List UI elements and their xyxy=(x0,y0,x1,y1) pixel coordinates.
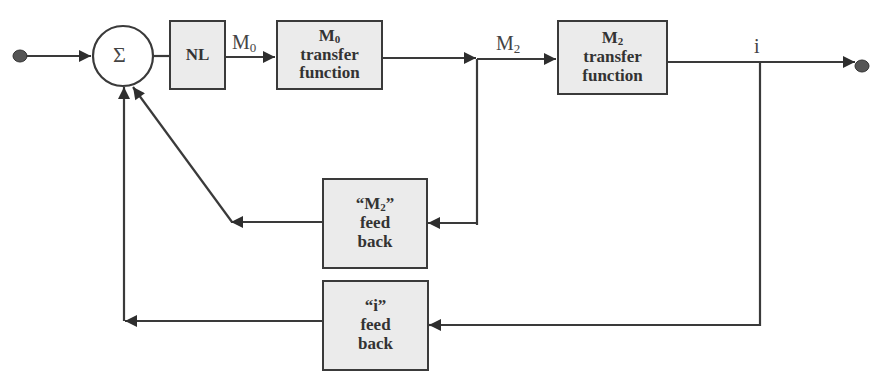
m0-block-title: M0 xyxy=(319,27,341,46)
m0-block-line-1: transfer xyxy=(300,46,359,65)
i-feedback-line-1: feed xyxy=(360,316,390,335)
m2-transfer-function-block: M2 transfer function xyxy=(557,20,668,95)
nl-block-label: NL xyxy=(186,46,210,65)
i-feedback-title: “i” xyxy=(365,297,387,316)
signal-label-m0: M0 xyxy=(232,32,256,54)
signal-label-i: i xyxy=(754,36,760,56)
diagram-wiring xyxy=(0,0,889,382)
m2-feedback-line-1: feed xyxy=(360,214,390,233)
signal-label-m2: M2 xyxy=(496,33,520,55)
output-terminal xyxy=(855,60,869,72)
m2-feedback-to-sum-line xyxy=(133,87,232,222)
block-diagram: Σ NL M0 transfer function M2 transfer fu… xyxy=(0,0,889,382)
m0-transfer-function-block: M0 transfer function xyxy=(276,20,383,90)
sum-symbol: Σ xyxy=(113,44,126,66)
m2-block-line-2: function xyxy=(582,67,642,86)
m2-block-line-1: transfer xyxy=(583,48,642,67)
m2-feedback-line-2: back xyxy=(358,233,393,252)
m0-block-line-2: function xyxy=(299,64,359,83)
input-terminal xyxy=(13,50,27,62)
i-feedback-block: “i” feed back xyxy=(322,280,429,371)
m2-feedback-block: “M2” feed back xyxy=(322,178,428,269)
m2-block-title: M2 xyxy=(602,29,624,48)
m2-feedback-title: “M2” xyxy=(356,195,395,214)
nl-block: NL xyxy=(169,20,226,90)
i-feedback-line-2: back xyxy=(358,335,393,354)
